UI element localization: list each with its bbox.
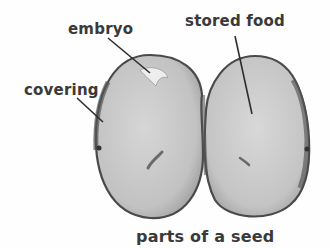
- diagram-caption: parts of a seed: [136, 229, 274, 245]
- embryo-label: embryo: [68, 22, 133, 37]
- left-seed-half: [96, 55, 203, 218]
- stored-food-label: stored food: [185, 14, 285, 29]
- right-seed-half: [205, 56, 310, 216]
- seed-diagram: embryo stored food covering parts of a s…: [0, 0, 330, 248]
- seed-illustration: [0, 0, 330, 248]
- covering-label: covering: [24, 83, 99, 98]
